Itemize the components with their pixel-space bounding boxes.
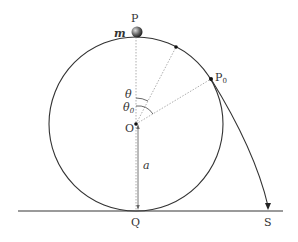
label-theta: θ bbox=[125, 88, 132, 101]
label-m: m bbox=[114, 27, 126, 40]
label-O: O bbox=[125, 122, 134, 135]
label-P: P bbox=[131, 12, 139, 25]
label-P0: P0 bbox=[215, 71, 227, 85]
theta0-arc bbox=[136, 106, 153, 114]
radius-theta bbox=[136, 47, 176, 124]
label-theta0: θ0 bbox=[123, 101, 135, 115]
sphere-diagram: P m P0 θ θ0 O a Q S bbox=[0, 0, 298, 242]
label-S: S bbox=[264, 216, 272, 229]
theta-arc bbox=[136, 98, 148, 101]
arrow-head-bottom bbox=[136, 205, 139, 210]
trajectory-arrowhead bbox=[265, 203, 271, 210]
mass-ball bbox=[132, 27, 143, 38]
p0-dot bbox=[209, 77, 213, 81]
theta-point-dot bbox=[174, 45, 178, 49]
label-Q: Q bbox=[131, 216, 140, 229]
label-a: a bbox=[143, 159, 150, 172]
center-dot bbox=[134, 122, 138, 126]
